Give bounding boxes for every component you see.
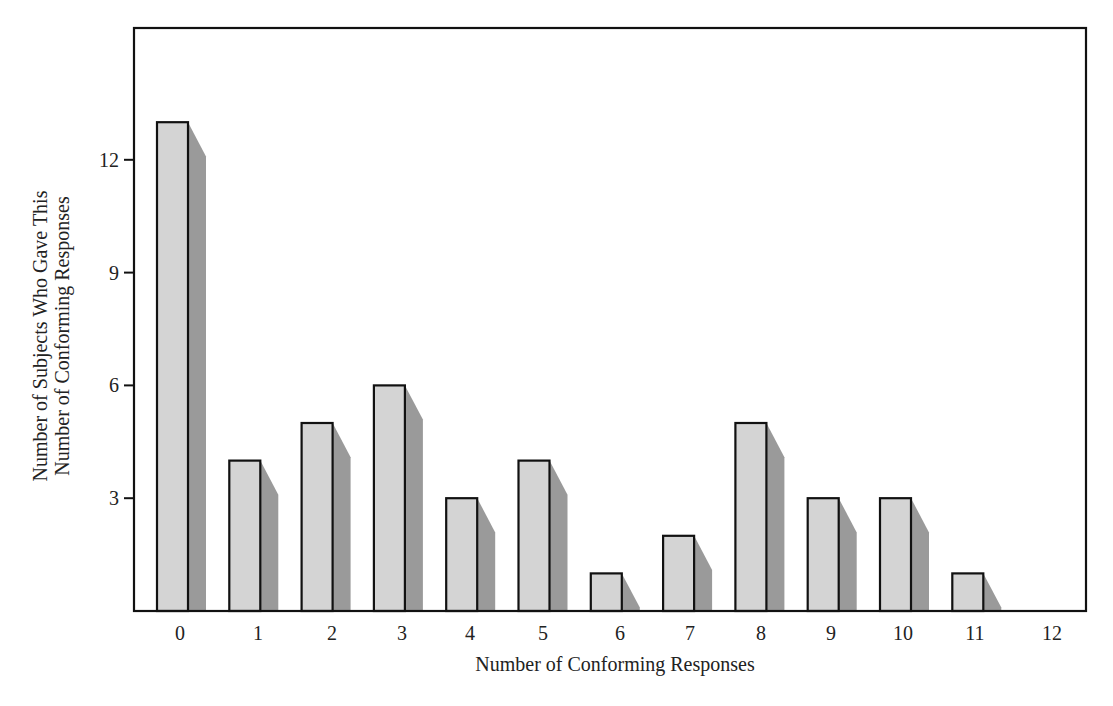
bar-shadow xyxy=(260,461,278,611)
bar-rect xyxy=(446,498,477,611)
bar-rect xyxy=(952,573,983,611)
bars-group xyxy=(157,122,1001,611)
bar-shadow xyxy=(839,498,857,611)
bar-2 xyxy=(302,423,351,611)
x-tick-label: 8 xyxy=(756,622,766,644)
y-axis-title: Number of Subjects Who Gave This Number … xyxy=(29,190,74,481)
bar-rect xyxy=(302,423,333,611)
bar-rect xyxy=(880,498,911,611)
y-tick-label: 9 xyxy=(109,262,119,284)
bar-shadow xyxy=(983,573,1001,611)
bar-rect xyxy=(157,122,188,611)
y-axis-title-line1: Number of Subjects Who Gave This xyxy=(29,190,52,481)
bar-shadow xyxy=(622,573,640,611)
x-tick-label: 5 xyxy=(538,622,548,644)
bar-6 xyxy=(591,573,640,611)
bar-rect xyxy=(519,461,550,611)
bar-0 xyxy=(157,122,206,611)
bar-shadow xyxy=(550,461,568,611)
x-tick-label: 11 xyxy=(965,622,984,644)
bar-4 xyxy=(446,498,495,611)
bar-shadow xyxy=(911,498,929,611)
bar-rect xyxy=(374,385,405,611)
y-tick-label: 3 xyxy=(109,487,119,509)
y-tick-label: 6 xyxy=(109,374,119,396)
bar-5 xyxy=(519,461,568,611)
y-axis-title-line2: Number of Conforming Responses xyxy=(51,196,74,476)
bar-shadow xyxy=(188,122,206,611)
bar-shadow xyxy=(405,385,423,611)
x-tick-label: 6 xyxy=(615,622,625,644)
x-axis-ticks: 0123456789101112 xyxy=(175,622,1062,644)
x-tick-label: 0 xyxy=(175,622,185,644)
bar-rect xyxy=(808,498,839,611)
x-tick-label: 3 xyxy=(397,622,407,644)
bar-11 xyxy=(952,573,1001,611)
bar-10 xyxy=(880,498,929,611)
bar-shadow xyxy=(694,536,712,611)
x-tick-label: 12 xyxy=(1042,622,1062,644)
y-tick-label: 12 xyxy=(99,149,119,171)
x-tick-label: 10 xyxy=(893,622,913,644)
bar-rect xyxy=(591,573,622,611)
bar-chart: 36912 0123456789101112 Number of Conform… xyxy=(0,0,1113,706)
bar-3 xyxy=(374,385,423,611)
x-tick-label: 1 xyxy=(253,622,263,644)
x-tick-label: 4 xyxy=(465,622,475,644)
x-axis-title: Number of Conforming Responses xyxy=(475,653,755,676)
bar-9 xyxy=(808,498,857,611)
bar-1 xyxy=(229,461,278,611)
x-tick-label: 2 xyxy=(327,622,337,644)
y-axis-ticks: 36912 xyxy=(99,149,134,509)
bar-7 xyxy=(663,536,712,611)
bar-shadow xyxy=(333,423,351,611)
x-tick-label: 9 xyxy=(826,622,836,644)
bar-shadow xyxy=(477,498,495,611)
bar-shadow xyxy=(766,423,784,611)
bar-8 xyxy=(735,423,784,611)
x-tick-label: 7 xyxy=(685,622,695,644)
bar-rect xyxy=(735,423,766,611)
bar-rect xyxy=(663,536,694,611)
bar-rect xyxy=(229,461,260,611)
